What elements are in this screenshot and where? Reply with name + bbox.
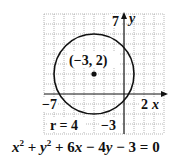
circle-graph — [0, 0, 189, 157]
center-point — [91, 71, 96, 76]
x-max-tick-label: 2 — [141, 98, 148, 112]
grid — [44, 14, 164, 134]
y-axis-label: y — [129, 12, 135, 26]
y-min-tick-label: −3 — [101, 119, 116, 133]
x-axis-label: x — [152, 98, 159, 112]
center-label: (−3, 2) — [69, 54, 107, 68]
circle-equation: x2 + y2 + 6x − 4y − 3 = 0 — [12, 138, 160, 156]
radius-label: r = 4 — [50, 119, 78, 133]
y-axis-arrow-icon — [121, 12, 127, 19]
x-min-tick-label: −7 — [42, 98, 57, 112]
y-max-tick-label: 7 — [112, 15, 119, 29]
x-axis-arrow-icon — [161, 91, 168, 97]
